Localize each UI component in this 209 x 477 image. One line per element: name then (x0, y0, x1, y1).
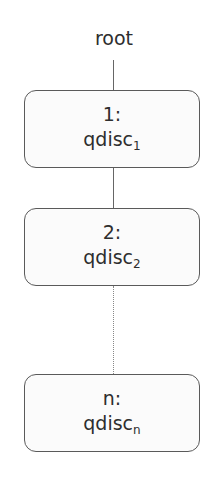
node-id: n: (25, 386, 199, 410)
edge-2-to-n-dotted (113, 286, 114, 374)
node-qdisc-n: n: qdiscn (24, 374, 200, 452)
node-name: qdiscn (25, 410, 199, 436)
node-id: 1: (25, 102, 199, 126)
node-name: qdisc1 (25, 126, 199, 152)
node-name: qdisc2 (25, 244, 199, 270)
node-qdisc-1: 1: qdisc1 (24, 90, 200, 168)
edge-1-to-2 (113, 168, 114, 208)
edge-root-to-1 (113, 60, 114, 90)
node-id: 2: (25, 220, 199, 244)
node-qdisc-2: 2: qdisc2 (24, 208, 200, 286)
root-label: root (0, 27, 209, 49)
